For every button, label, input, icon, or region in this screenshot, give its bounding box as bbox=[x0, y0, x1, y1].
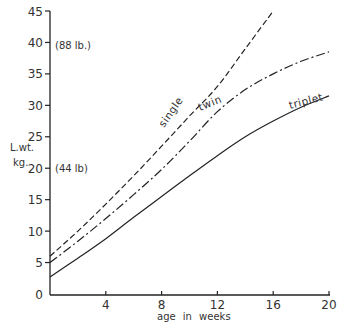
y-tick-label: 35 bbox=[28, 67, 43, 81]
series-group bbox=[50, 11, 329, 277]
y-tick-label: 5 bbox=[35, 256, 43, 270]
y-tick-label: 30 bbox=[28, 99, 43, 113]
series-line-twin bbox=[50, 52, 329, 263]
annotation-44lb: (44 lb) bbox=[55, 163, 88, 174]
x-tick-label: 8 bbox=[158, 298, 166, 312]
annotation-88lb: (88 lb.) bbox=[55, 40, 91, 51]
series-line-triplet bbox=[50, 96, 329, 277]
y-tick-label: 45 bbox=[28, 5, 43, 19]
x-axis-label: age in weeks bbox=[157, 311, 231, 322]
y-tick-label: 15 bbox=[28, 193, 43, 207]
growth-chart: 051015202530354045 48121620 L.wt. kg. ag… bbox=[0, 0, 343, 327]
y-tick-label: 40 bbox=[28, 36, 43, 50]
y-tick-label: 10 bbox=[28, 225, 43, 239]
y-axis: 051015202530354045 bbox=[28, 5, 50, 302]
x-tick-label: 12 bbox=[210, 298, 225, 312]
x-tick-label: 16 bbox=[266, 298, 281, 312]
y-axis-label-line2: kg. bbox=[13, 157, 28, 168]
x-tick-label: 4 bbox=[102, 298, 110, 312]
x-tick-label: 20 bbox=[321, 298, 336, 312]
series-label-triplet: triplet bbox=[287, 90, 324, 111]
x-axis: 48121620 bbox=[50, 291, 337, 312]
y-tick-label: 20 bbox=[28, 162, 43, 176]
y-axis-label-line1: L.wt. bbox=[10, 142, 34, 153]
series-label-single: single bbox=[156, 94, 185, 129]
y-tick-label: 0 bbox=[35, 288, 43, 302]
